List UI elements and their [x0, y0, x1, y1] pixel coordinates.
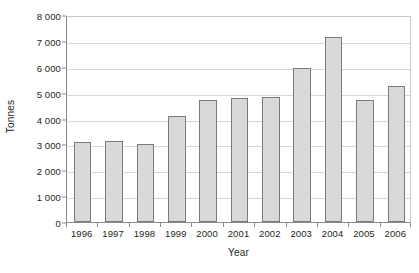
x-tick-mark — [410, 223, 411, 227]
bar-slot — [356, 17, 374, 222]
plot-area — [66, 16, 411, 223]
x-tick-label: 2003 — [290, 228, 312, 239]
y-tick-label: 1 000 — [37, 192, 61, 203]
bar-2002[interactable] — [262, 97, 280, 222]
x-tick-label: 2001 — [228, 228, 250, 239]
bar-2003[interactable] — [293, 68, 311, 222]
x-tick-label: 2006 — [385, 228, 407, 239]
y-axis-tick-labels: 01 0002 0003 0004 0005 0006 0007 0008 00… — [22, 16, 66, 223]
x-tick-label: 2000 — [196, 228, 218, 239]
x-tick-mark — [254, 223, 255, 227]
x-tick-mark — [66, 223, 67, 227]
y-tick-label: 7 000 — [37, 36, 61, 47]
bar-slot — [74, 17, 92, 222]
bar-slot — [137, 17, 155, 222]
y-tick-label: 8 000 — [37, 11, 61, 22]
bar-1998[interactable] — [137, 144, 155, 222]
x-tick-mark — [286, 223, 287, 227]
bar-2000[interactable] — [199, 100, 217, 222]
x-tick-label: 2002 — [259, 228, 281, 239]
bar-1996[interactable] — [74, 142, 92, 222]
x-tick-mark — [223, 223, 224, 227]
x-tick-label: 1996 — [71, 228, 93, 239]
x-tick-label: 2004 — [322, 228, 344, 239]
bar-slot — [105, 17, 123, 222]
bars-layer — [67, 17, 410, 222]
bar-2001[interactable] — [231, 98, 249, 222]
bar-chart-figure: Tonnes 01 0002 0003 0004 0005 0006 0007 … — [0, 0, 419, 273]
bar-slot — [231, 17, 249, 222]
bar-slot — [293, 17, 311, 222]
x-tick-mark — [129, 223, 130, 227]
y-tick-label: 3 000 — [37, 140, 61, 151]
bar-slot — [325, 17, 343, 222]
x-axis-title: Year — [66, 247, 411, 258]
y-axis-title: Tonnes — [0, 0, 22, 232]
bar-2005[interactable] — [356, 100, 374, 222]
x-tick-mark — [317, 223, 318, 227]
x-tick-label: 2005 — [353, 228, 375, 239]
y-tick-label: 2 000 — [37, 166, 61, 177]
x-tick-mark — [348, 223, 349, 227]
x-tick-mark — [191, 223, 192, 227]
bar-slot — [199, 17, 217, 222]
y-axis-title-label: Tonnes — [6, 99, 17, 132]
x-axis-title-label: Year — [228, 247, 249, 258]
x-tick-mark — [97, 223, 98, 227]
x-tick-mark — [160, 223, 161, 227]
bar-slot — [168, 17, 186, 222]
bar-slot — [388, 17, 406, 222]
x-tick-mark — [380, 223, 381, 227]
x-tick-label: 1998 — [134, 228, 156, 239]
bar-2006[interactable] — [388, 86, 406, 222]
y-tick-label: 5 000 — [37, 88, 61, 99]
x-axis-tick-labels: 1996199719981999200020012002200320042005… — [66, 228, 411, 244]
y-tick-label: 6 000 — [37, 62, 61, 73]
x-tick-label: 1997 — [102, 228, 124, 239]
y-tick-label: 4 000 — [37, 114, 61, 125]
bar-1997[interactable] — [105, 141, 123, 222]
y-tick-label: 0 — [56, 218, 61, 229]
bar-1999[interactable] — [168, 116, 186, 222]
bar-2004[interactable] — [325, 37, 343, 222]
x-tick-label: 1999 — [165, 228, 187, 239]
bar-slot — [262, 17, 280, 222]
